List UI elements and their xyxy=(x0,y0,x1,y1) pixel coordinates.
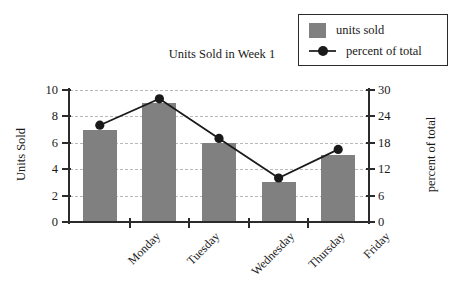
y-axis-tick-label: 4 xyxy=(28,163,58,176)
legend-item-percent-of-total: percent of total xyxy=(309,41,422,61)
gridline xyxy=(70,116,368,117)
y-axis-tick xyxy=(62,168,71,170)
chart-figure: units sold percent of total Units Sold i… xyxy=(0,0,459,291)
bar-friday xyxy=(321,155,355,222)
gridline xyxy=(70,90,368,91)
x-axis-line xyxy=(68,221,370,223)
y2-axis-tick xyxy=(366,195,375,197)
bar-thursday xyxy=(262,182,296,222)
y-axis-tick xyxy=(62,195,71,197)
x-axis-category-label: Friday xyxy=(361,230,392,261)
x-axis-tick xyxy=(307,218,309,228)
y2-axis-tick xyxy=(366,168,375,170)
bar-wednesday xyxy=(202,143,236,222)
y2-axis-tick xyxy=(366,115,375,117)
y2-axis-tick-label: 12 xyxy=(378,163,408,176)
x-axis-category-label: Wednesday xyxy=(249,230,296,277)
y-axis-tick xyxy=(62,221,71,223)
bar-tuesday xyxy=(142,103,176,222)
y2-axis-tick-label: 30 xyxy=(378,84,408,97)
y-axis-line xyxy=(68,88,70,224)
x-axis-tick xyxy=(248,218,250,228)
y2-axis-line xyxy=(368,88,370,224)
y2-axis-tick-label: 6 xyxy=(378,190,408,203)
y2-axis-tick-label: 24 xyxy=(378,110,408,123)
y-axis-title: Units Sold xyxy=(14,110,29,200)
y-axis-tick-label: 8 xyxy=(28,110,58,123)
y-axis-tick-label: 6 xyxy=(28,137,58,150)
chart-legend: units sold percent of total xyxy=(298,14,448,66)
legend-line-marker-icon xyxy=(309,44,336,58)
x-axis-tick xyxy=(129,218,131,228)
y2-axis-tick xyxy=(366,142,375,144)
y2-axis-tick-label: 0 xyxy=(378,216,408,229)
x-axis-tick xyxy=(188,218,190,228)
plot-area xyxy=(70,90,368,222)
y-axis-tick xyxy=(62,89,71,91)
y-axis-tick-label: 0 xyxy=(28,216,58,229)
legend-label-percent-of-total: percent of total xyxy=(346,45,422,58)
legend-swatch-icon xyxy=(309,23,326,38)
x-axis-category-label: Monday xyxy=(126,230,163,267)
bar-monday xyxy=(83,130,117,222)
chart-title: Units Sold in Week 1 xyxy=(152,47,292,62)
y2-axis-tick-label: 18 xyxy=(378,137,408,150)
y-axis-tick xyxy=(62,142,71,144)
y2-axis-tick xyxy=(366,89,375,91)
legend-item-units-sold: units sold xyxy=(309,20,384,40)
y-axis-tick-label: 2 xyxy=(28,190,58,203)
y-axis-tick-label: 10 xyxy=(28,84,58,97)
x-axis-category-label: Tuesday xyxy=(185,230,222,267)
y2-axis-tick xyxy=(366,221,375,223)
x-axis-category-label: Thursday xyxy=(306,230,347,271)
y2-axis-title: percent of total xyxy=(424,105,439,205)
legend-label-units-sold: units sold xyxy=(336,24,384,37)
y-axis-tick xyxy=(62,115,71,117)
